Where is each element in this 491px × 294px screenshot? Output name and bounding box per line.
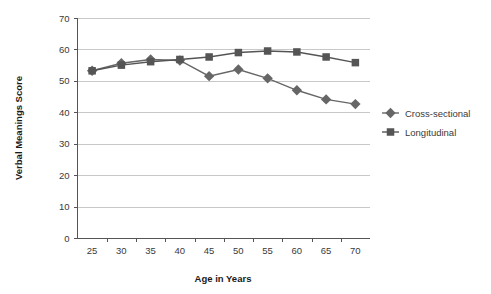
data-point-marker-square bbox=[352, 59, 360, 67]
x-tick-label: 50 bbox=[233, 245, 244, 256]
x-tick-label: 30 bbox=[116, 245, 127, 256]
x-tick-label: 25 bbox=[87, 245, 98, 256]
y-axis-title: Verbal Meanings Score bbox=[13, 76, 24, 180]
chart-container: 010203040506070 25303540455055606570 Age… bbox=[0, 0, 491, 294]
data-point-marker-square bbox=[147, 58, 155, 66]
y-tick-label: 20 bbox=[59, 170, 70, 181]
x-tick-label: 40 bbox=[175, 245, 186, 256]
legend-label: Longitudinal bbox=[405, 127, 456, 138]
y-tick-label: 70 bbox=[59, 13, 70, 24]
x-tick-label: 35 bbox=[145, 245, 156, 256]
x-tick-label: 70 bbox=[350, 245, 361, 256]
data-point-marker-square bbox=[176, 56, 184, 64]
data-point-marker-square bbox=[118, 61, 126, 68]
x-tick-label: 45 bbox=[204, 245, 215, 256]
data-point-marker-square bbox=[88, 67, 96, 75]
y-tick-label: 10 bbox=[59, 201, 70, 212]
y-tick-label: 50 bbox=[59, 75, 70, 86]
y-tick-label: 30 bbox=[59, 138, 70, 149]
data-point-marker-square bbox=[322, 53, 330, 61]
x-tick-label: 65 bbox=[321, 245, 332, 256]
x-axis-title: Age in Years bbox=[195, 273, 252, 284]
data-point-marker-square bbox=[235, 49, 243, 57]
data-point-marker-square bbox=[205, 53, 213, 61]
data-point-marker-square bbox=[293, 48, 301, 56]
legend-label: Cross-sectional bbox=[405, 108, 470, 119]
x-tick-label: 60 bbox=[292, 245, 303, 256]
data-point-marker-square bbox=[387, 128, 395, 136]
chart-background bbox=[0, 0, 491, 294]
data-point-marker-square bbox=[264, 47, 272, 55]
y-tick-label: 40 bbox=[59, 107, 70, 118]
y-tick-label: 60 bbox=[59, 44, 70, 55]
verbal-meanings-line-chart: 010203040506070 25303540455055606570 Age… bbox=[0, 0, 491, 294]
y-tick-label: 0 bbox=[64, 233, 69, 244]
x-tick-label: 55 bbox=[262, 245, 273, 256]
